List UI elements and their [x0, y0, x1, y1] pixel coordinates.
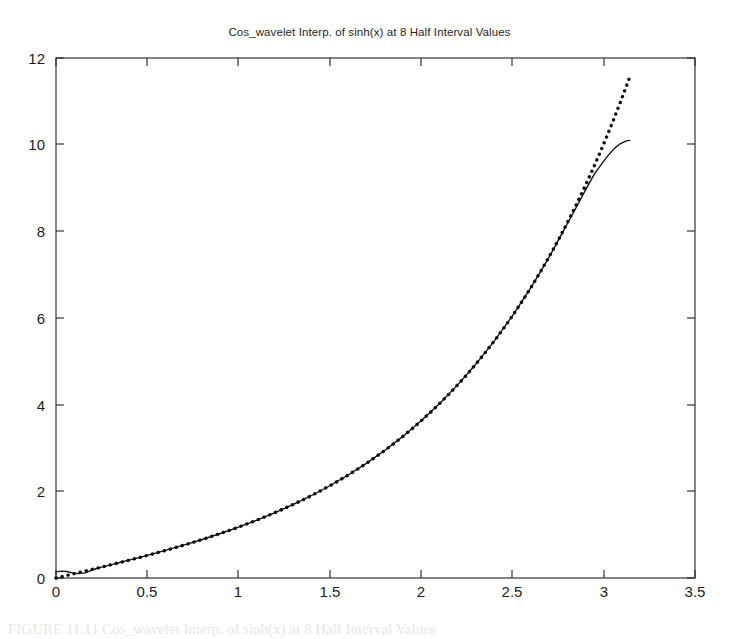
y-tick-label: 2	[37, 483, 45, 500]
y-tick-label: 8	[37, 223, 45, 240]
series-coswavelet-interpolant-solid	[56, 140, 630, 573]
x-tick-label: 1.5	[320, 583, 341, 600]
y-tick-labels: 0 2 4 6 8 10 12	[28, 50, 45, 587]
y-tick-label: 6	[37, 310, 45, 327]
figure-caption: FIGURE 11.11 Cos_wavelet Interp. of sinh…	[8, 624, 732, 638]
y-tick-label: 10	[28, 136, 45, 153]
x-tick-label: 3.5	[685, 583, 706, 600]
y-tick-label: 0	[37, 570, 45, 587]
x-tick-labels: 0 0.5 1 1.5 2 2.5 3 3.5	[52, 583, 706, 600]
y-tick-label: 4	[37, 397, 45, 414]
x-tick-label: 3	[600, 583, 608, 600]
x-tick-label: 2	[417, 583, 425, 600]
figure-caption-strip: FIGURE 11.11 Cos_wavelet Interp. of sinh…	[0, 624, 739, 639]
plot-frame	[56, 58, 695, 578]
series-sinh-exact-dotted	[56, 78, 630, 578]
x-tick-label: 1	[234, 583, 242, 600]
y-axis-ticks	[56, 58, 695, 578]
x-tick-label: 2.5	[502, 583, 523, 600]
chart-plot-area: 0 0.5 1 1.5 2 2.5 3 3.5 0 2 4 6 8 10 12	[0, 0, 739, 639]
x-tick-label: 0	[52, 583, 60, 600]
x-tick-label: 0.5	[137, 583, 158, 600]
y-tick-label: 12	[28, 50, 45, 67]
figure-container: Cos_wavelet Interp. of sinh(x) at 8 Half…	[0, 0, 739, 639]
x-axis-ticks	[56, 58, 695, 578]
